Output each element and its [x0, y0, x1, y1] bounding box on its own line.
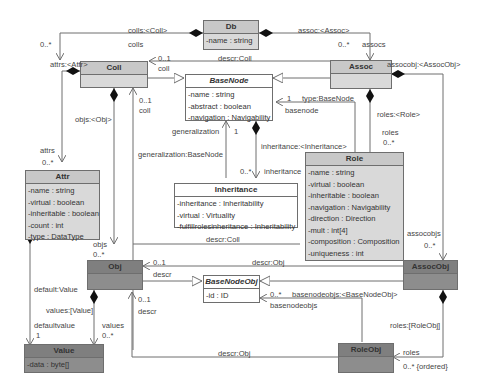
class-assoc-name: Assoc: [331, 61, 391, 74]
label-inheritance-inh: inheritance:<Inheritance>: [261, 142, 347, 151]
label-roles-roleobj-mult: 0..* {ordered}: [403, 362, 448, 371]
label-descr-mult-1: 0..1: [153, 258, 166, 267]
label-basenode-mult: 1: [287, 94, 291, 103]
class-assocobj-name: AssocObj: [404, 261, 457, 274]
class-attr[interactable]: Attr -name : string -virtual : boolean -…: [25, 170, 100, 240]
class-attr-attr: -inheritable : boolean: [28, 208, 97, 220]
label-roles-roleobj: roles:[RoleObj]: [390, 321, 440, 330]
label-coll-mult-top: 0..1: [158, 54, 171, 63]
class-role-attr: -direction : Direction: [308, 213, 401, 225]
label-assocobj-assocobj: assocobj:<AssocObj>: [387, 60, 460, 69]
class-inheritance-attr: -fulfillrolesinheritance : Inheritabilit…: [177, 221, 295, 233]
class-role[interactable]: Role -name : string -virtual : boolean -…: [305, 152, 404, 261]
label-descr-obj-2: descr:Obj: [218, 349, 251, 358]
label-descr-coll-mid: descr:Coll: [206, 235, 240, 244]
class-role-attr: -uniqueness : int: [308, 248, 401, 260]
class-inheritance-attr: -virtual : Virtuality: [177, 210, 295, 222]
class-basenode-attr: -abstract : boolean: [188, 101, 270, 113]
label-assoc-mult: 0..*: [338, 40, 349, 49]
class-basenode-attr: -name : string: [188, 89, 270, 101]
class-obj-name: Obj: [88, 261, 142, 274]
class-value[interactable]: Value -data : byte[]: [24, 344, 104, 373]
label-basenodeobjs-role: basenodeobjs: [270, 301, 317, 310]
label-colls-role: colls: [128, 40, 143, 49]
class-role-attr: -inheritable : boolean: [308, 190, 401, 202]
label-roles-roleobj-role: roles: [403, 348, 419, 357]
label-generalization-role: generalization: [172, 127, 219, 136]
label-roles-role-end: roles: [382, 128, 398, 137]
label-defaultvalue-role: defaultvalue: [34, 321, 75, 330]
class-role-attr: -navigation : Navigability: [308, 202, 401, 214]
label-values-role: values: [102, 321, 124, 330]
label-values-mult: 0..*: [102, 331, 113, 340]
class-attr-attr: -virtual : boolean: [28, 197, 97, 209]
class-db-name: Db: [204, 21, 258, 34]
label-basenodeobjs-mult: 0..*: [270, 290, 281, 299]
class-roleobj[interactable]: RoleObj: [338, 343, 394, 373]
label-descr-role-1: descr: [153, 270, 172, 279]
label-descr-mult-2: 0..1: [138, 295, 151, 304]
label-values-value: values:[Value]: [46, 306, 93, 315]
class-value-attr: -data : byte[]: [27, 359, 101, 371]
class-basenodeobj-attr: -id : ID: [206, 290, 257, 302]
label-roles-role: roles:<Role>: [377, 110, 420, 119]
label-basenode-role: basenode: [285, 106, 318, 115]
class-basenode-attr: -navigation : Navigability: [188, 112, 270, 124]
label-assocs-role: assocs: [362, 40, 386, 49]
label-assocobjs-role: assocobjs: [407, 229, 441, 238]
label-inheritance-role: inheritance: [264, 167, 301, 176]
label-coll-role-mid: coll: [139, 106, 150, 115]
class-role-attr: -name : string: [308, 167, 401, 179]
class-basenode-name: BaseNode: [186, 75, 272, 88]
label-attrs-attr: attrs:<Attr>: [50, 60, 88, 69]
label-objs-obj: objs:<Obj>: [75, 115, 112, 124]
class-basenodeobj-name: BaseNodeObj: [204, 276, 259, 289]
label-attrs-mult: 0..*: [42, 158, 53, 167]
class-inheritance-name: Inheritance: [175, 184, 297, 197]
class-role-attr: -virtual : boolean: [308, 179, 401, 191]
class-inheritance[interactable]: Inheritance -inheritance : Inheritabilit…: [174, 183, 298, 228]
label-attrs-role: attrs: [40, 146, 55, 155]
class-attr-attr: -name : string: [28, 185, 97, 197]
class-role-attr: -mult : int[4]: [308, 225, 401, 237]
class-basenode[interactable]: BaseNode -name : string -abstract : bool…: [185, 74, 273, 121]
label-coll-mult-mid: 0..1: [139, 96, 152, 105]
label-assoc-assoc: assoc:<Assoc>: [298, 26, 350, 35]
label-descr-coll-top: descr:Coll: [218, 54, 252, 63]
class-coll[interactable]: Coll: [80, 61, 148, 88]
label-objs-role: objs: [93, 240, 107, 249]
class-coll-name: Coll: [81, 62, 147, 75]
label-roles-mult: 0..*: [383, 138, 394, 147]
class-attr-attr: -count : int: [28, 220, 97, 232]
label-basenodeobjs-bno: basenodeobjs:<BaseNodeObj>: [292, 290, 398, 299]
label-defaultvalue-mult: 1: [36, 331, 40, 340]
label-inheritance-mult: 0..*: [240, 167, 251, 176]
label-generalization-mult: 1: [234, 127, 238, 136]
class-role-attr: -composition : Composition: [308, 236, 401, 248]
label-assocobjs-mult: 0..*: [424, 241, 435, 250]
class-db-attr: -name : string: [206, 35, 256, 47]
class-role-name: Role: [306, 153, 403, 166]
class-attr-attr: -type : DataType: [28, 231, 97, 243]
class-value-name: Value: [25, 345, 103, 358]
label-objs-mult: 0..*: [93, 250, 104, 259]
class-inheritance-attr: -inheritance : Inheritability: [177, 198, 295, 210]
class-attr-name: Attr: [26, 171, 99, 184]
class-assoc[interactable]: Assoc: [330, 60, 392, 89]
label-generalization-basenode: generalization:BaseNode: [138, 150, 223, 159]
label-colls-coll: colls:<Coll>: [128, 26, 167, 35]
label-coll-role-top: coll: [158, 64, 169, 73]
label-descr-obj-1: descr:Obj: [252, 258, 285, 267]
class-assocobj[interactable]: AssocObj: [403, 260, 458, 290]
class-obj[interactable]: Obj: [87, 260, 143, 290]
label-descr-role-2: descr: [138, 307, 157, 316]
class-db[interactable]: Db -name : string: [203, 20, 259, 50]
label-type-basenode: type:BaseNode: [302, 94, 354, 103]
class-basenodeobj[interactable]: BaseNodeObj -id : ID: [203, 275, 260, 303]
class-roleobj-name: RoleObj: [339, 344, 393, 357]
label-colls-mult: 0..*: [40, 40, 51, 49]
label-default-value: default:Value: [34, 285, 78, 294]
